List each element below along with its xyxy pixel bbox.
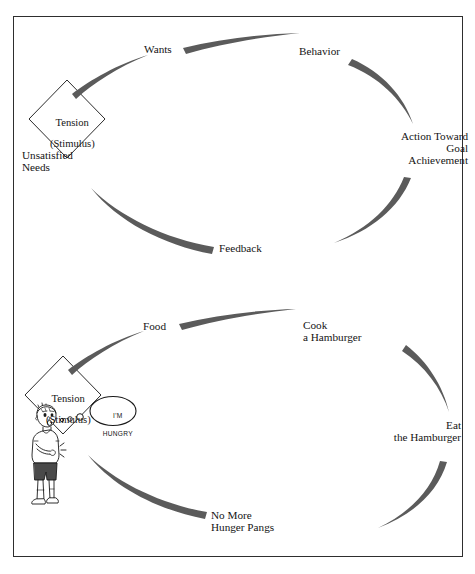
figure-root: Tension (Stimulus) UnsatisfiedNeeds Want… — [0, 0, 475, 574]
node-cook-a-hamburger: Cooka Hamburger — [303, 320, 362, 344]
figure-frame — [13, 16, 463, 557]
tension-diamond-bottom-label: Tension (Stimulus) — [25, 383, 101, 437]
node-behavior: Behavior — [299, 46, 340, 58]
tension-line2: (Stimulus) — [50, 138, 95, 149]
node-feedback: Feedback — [219, 243, 262, 255]
node-unsatisfied-needs: UnsatisfiedNeeds — [22, 150, 73, 174]
node-no-more-hunger-pangs: No MoreHunger Pangs — [211, 510, 274, 534]
thought-line1: I'M — [113, 412, 122, 419]
node-action-toward-goal: Action TowardGoalAchievement — [351, 131, 468, 167]
thought-line2: HUNGRY — [103, 430, 133, 437]
node-eat-the-hamburger: Eatthe Hamburger — [348, 420, 461, 444]
node-food: Food — [143, 321, 166, 333]
tension-line1-bottom: Tension — [52, 393, 85, 404]
thought-bubble-text: I'M HUNGRY — [91, 403, 136, 447]
node-wants: Wants — [144, 44, 172, 56]
tension-line2-bottom: (Stimulus) — [46, 414, 91, 425]
tension-line1: Tension — [56, 117, 89, 128]
